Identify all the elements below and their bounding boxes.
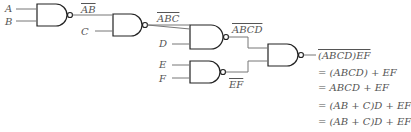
- wire-label-ab-bar: AB: [81, 4, 96, 15]
- input-label-c: C: [81, 26, 89, 37]
- input-label-d: D: [159, 38, 167, 49]
- equation-line-2: = (ABCD) + EF: [318, 67, 397, 78]
- nand-gate-5: [268, 44, 298, 66]
- input-label-e: E: [159, 59, 166, 70]
- equation-line-4: = (AB + C)D + EF: [318, 100, 411, 111]
- inversion-bubble-1: [68, 13, 73, 18]
- equation-line-1: (ABCD)EF: [318, 50, 370, 61]
- input-label-f: F: [159, 73, 166, 84]
- wire-label-abcd-bar: ABCD: [232, 24, 262, 35]
- nand-gate-1: [37, 4, 67, 26]
- wire-label-abc-bar: ABC: [157, 13, 179, 24]
- input-label-a: A: [5, 3, 12, 14]
- wire-label-ef-bar: EF: [229, 79, 243, 90]
- nand-gate-2: [113, 14, 142, 36]
- equation-line-3: = ABCD + EF: [318, 82, 389, 93]
- nand-gate-3: [190, 25, 223, 49]
- input-label-b: B: [5, 16, 12, 27]
- equation-line-5: = (AB + C)D + EF: [318, 116, 411, 127]
- nand-gate-4: [190, 61, 220, 83]
